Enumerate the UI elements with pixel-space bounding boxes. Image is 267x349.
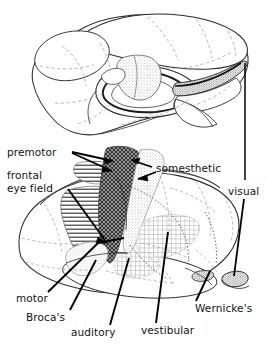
label-visual: visual [228,185,259,197]
label-eye-field: eye field [7,182,53,194]
label-vestibular: vestibular [141,324,194,336]
medial-view-group [32,14,248,135]
label-frontal: frontal [7,169,42,181]
label-premotor: premotor [7,146,57,158]
label-wernickes: Wernicke's [195,302,252,314]
brain-anatomy-figure: premotor frontal eye field somesthetic v… [0,0,267,349]
label-brocas: Broca's [26,311,65,323]
label-auditory: auditory [71,326,116,338]
label-somesthetic: somesthetic [156,162,221,174]
label-motor: motor [16,292,48,304]
